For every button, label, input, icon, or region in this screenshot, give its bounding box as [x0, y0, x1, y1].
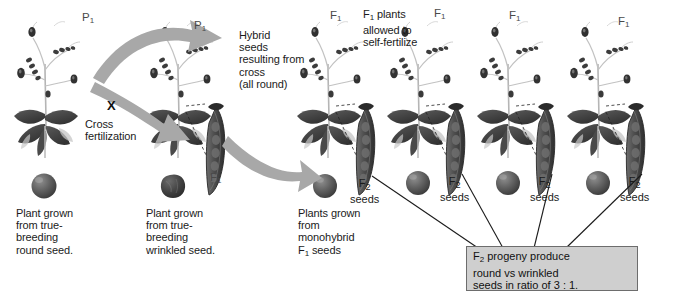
f1-label-plant-1: F1 — [330, 10, 341, 24]
cross-fertilization-label: Cross fertilization — [85, 118, 136, 142]
seed-round-f2-2 — [406, 171, 430, 195]
f1-plant-3 — [477, 22, 555, 195]
f2-seeds-label-2: F2 seeds — [440, 175, 469, 203]
p1-label-right: P1 — [194, 20, 206, 34]
f2-seeds-label-4: F2 seeds — [620, 175, 649, 203]
caption-f2-plants: Plants grown from monohybrid F1 seeds — [298, 207, 390, 260]
f1-label-pod: F1 — [210, 172, 221, 186]
self-fertilize-label: F1 plants allowed to self-fertilize — [363, 8, 461, 49]
f1-label-plant-3: F1 — [509, 10, 520, 24]
seed-round-f2-4 — [586, 171, 610, 195]
p1-left-plant — [14, 22, 80, 158]
p1-label-left: P1 — [82, 12, 94, 26]
p1-right-plant — [147, 22, 225, 195]
seed-round-f2-3 — [496, 171, 520, 195]
caption-p1-right: Plant grown from true- breeding wrinkled… — [146, 207, 268, 256]
cross-symbol: X — [107, 98, 116, 113]
f1-plant-4 — [567, 22, 645, 195]
hybrid-seeds-label: Hybrid seeds resulting from cross (all r… — [239, 29, 331, 90]
f2-ratio-text: F2 progeny produce round vs wrinkled see… — [473, 250, 632, 292]
seed-round-p1-left — [32, 174, 57, 199]
mendel-monohybrid-cross-diagram: P1 P1 F1 F1 F1 F1 F1 X Cross fertilizati… — [0, 0, 691, 297]
f1-label-plant-4: F1 — [618, 16, 629, 30]
f2-seeds-label-1: F2 seeds — [350, 177, 379, 205]
f2-ratio-box: F2 progeny produce round vs wrinkled see… — [466, 246, 638, 291]
seed-wrinkled-p1-right — [161, 174, 185, 198]
f2-seeds-label-3: F2 seeds — [530, 175, 559, 203]
caption-p1-left: Plant grown from true- breeding round se… — [16, 207, 128, 256]
